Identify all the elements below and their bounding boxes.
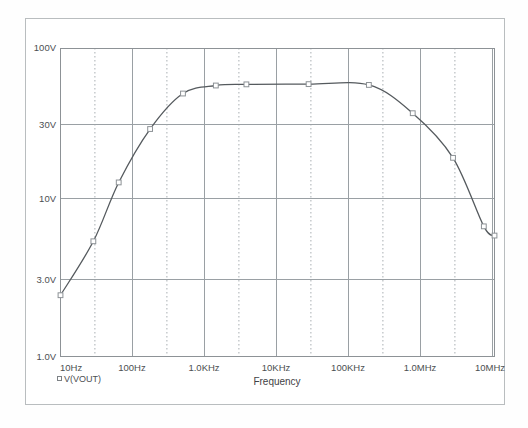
chart-canvas: 100V 30V 10V 3.0V 1.0V 10Hz 100Hz 1.0KHz… [0, 0, 528, 428]
data-point-marker[interactable] [410, 111, 415, 116]
screenshot-root: 100V 30V 10V 3.0V 1.0V 10Hz 100Hz 1.0KHz… [0, 0, 528, 428]
x-tick-label-10mhz: 10MHz [475, 362, 505, 373]
y-tick-label-1v: 1.0V [36, 351, 56, 362]
legend[interactable]: V(VOUT) [58, 374, 102, 384]
x-tick-label-1mhz: 1.0MHz [404, 362, 437, 373]
y-tick-label-10v: 10V [39, 193, 57, 204]
data-point-marker[interactable] [366, 83, 371, 88]
data-point-marker[interactable] [451, 155, 456, 160]
data-point-marker[interactable] [244, 82, 249, 87]
data-point-marker[interactable] [181, 91, 186, 96]
frequency-response-chart[interactable]: 100V 30V 10V 3.0V 1.0V 10Hz 100Hz 1.0KHz… [0, 0, 528, 428]
y-tick-label-30v: 30V [39, 119, 57, 130]
x-tick-label-10khz: 10KHz [262, 362, 291, 373]
x-tick-label-100khz: 100KHz [331, 362, 365, 373]
data-point-marker[interactable] [148, 127, 153, 132]
plot-area-background [60, 48, 495, 357]
data-point-marker[interactable] [306, 82, 311, 87]
y-tick-label-100v: 100V [34, 42, 57, 53]
x-axis-tick-labels: 10Hz 100Hz 1.0KHz 10KHz 100KHz 1.0MHz 10… [60, 362, 505, 373]
data-point-marker[interactable] [481, 224, 486, 229]
y-axis-tick-labels: 100V 30V 10V 3.0V 1.0V [34, 42, 57, 362]
x-tick-label-100hz: 100Hz [118, 362, 146, 373]
x-tick-label-10hz: 10Hz [60, 362, 82, 373]
x-axis-title: Frequency [253, 376, 300, 387]
data-point-marker[interactable] [213, 83, 218, 88]
legend-label-vout[interactable]: V(VOUT) [64, 374, 101, 384]
y-tick-label-3v: 3.0V [36, 274, 56, 285]
data-point-marker[interactable] [116, 180, 121, 185]
data-point-marker[interactable] [492, 233, 497, 238]
data-point-marker[interactable] [58, 293, 63, 298]
data-point-marker[interactable] [91, 239, 96, 244]
x-tick-label-1khz: 1.0KHz [188, 362, 219, 373]
square-marker-icon [58, 377, 62, 381]
